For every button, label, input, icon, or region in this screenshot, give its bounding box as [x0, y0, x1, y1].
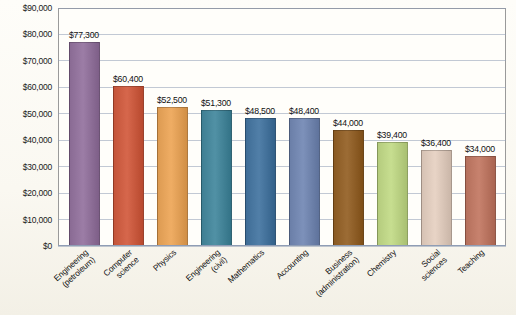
x-label-slot: Physics	[152, 248, 192, 314]
chart-page: $90,000$80,000$70,000$60,000$50,000$40,0…	[0, 0, 516, 315]
bar-slot: $48,500	[240, 8, 280, 246]
bar-slot: $51,300	[196, 8, 236, 246]
bar-slot: $60,400	[108, 8, 148, 246]
y-axis-tick-label: $60,000	[0, 82, 52, 92]
bar-value-label: $51,300	[201, 98, 231, 108]
x-axis-category-label: Chemistry	[365, 248, 398, 279]
bar-series: $77,300$60,400$52,500$51,300$48,500$48,4…	[58, 8, 506, 246]
x-label-slot: Teaching	[460, 248, 500, 314]
x-label-slot: Engineering(petroleum)	[64, 248, 104, 314]
y-axis-tick-label: $20,000	[0, 188, 52, 198]
bar-slot: $34,000	[460, 8, 500, 246]
x-axis-category-label: Physics	[152, 248, 179, 274]
bar[interactable]	[157, 107, 188, 246]
bar-value-label: $44,000	[333, 118, 363, 128]
bar-slot: $39,400	[372, 8, 412, 246]
bar-slot: $36,400	[416, 8, 456, 246]
y-axis-tick-label: $90,000	[0, 3, 52, 13]
bar[interactable]	[333, 130, 364, 246]
y-axis-tick-label: $30,000	[0, 162, 52, 172]
x-label-slot: Chemistry	[372, 248, 412, 314]
x-label-slot: Socialsciences	[416, 248, 456, 314]
bar[interactable]	[289, 118, 320, 246]
y-axis-tick-label: $40,000	[0, 135, 52, 145]
bar[interactable]	[69, 42, 100, 246]
x-label-slot: Business(administration)	[328, 248, 368, 314]
y-axis-tick-label: $0	[0, 241, 52, 251]
bar-value-label: $52,500	[157, 95, 187, 105]
bar-slot: $44,000	[328, 8, 368, 246]
bar-value-label: $36,400	[421, 138, 451, 148]
bar-value-label: $48,400	[289, 106, 319, 116]
bar[interactable]	[465, 156, 496, 246]
bar[interactable]	[113, 86, 144, 246]
x-axis-category-label: Socialsciences	[413, 248, 449, 283]
bar-value-label: $34,000	[465, 144, 495, 154]
bar-value-label: $60,400	[113, 74, 143, 84]
bar-value-label: $48,500	[245, 106, 275, 116]
bar-slot: $77,300	[64, 8, 104, 246]
bar-value-label: $77,300	[69, 30, 99, 40]
zero-axis-line	[58, 245, 506, 246]
x-label-slot: Computerscience	[108, 248, 148, 314]
bar[interactable]	[421, 150, 452, 246]
x-axis-category-label: Accounting	[275, 248, 311, 282]
bar[interactable]	[245, 118, 276, 246]
x-axis-category-label: Engineering(petroleum)	[52, 248, 96, 291]
y-axis-tick-label: $70,000	[0, 56, 52, 66]
x-label-slot: Mathematics	[240, 248, 280, 314]
bar[interactable]	[377, 142, 408, 246]
bar-value-label: $39,400	[377, 130, 407, 140]
x-axis-category-label: Computerscience	[102, 248, 141, 286]
x-axis-labels: Engineering(petroleum)ComputersciencePhy…	[58, 248, 506, 314]
bar-slot: $48,400	[284, 8, 324, 246]
y-axis-tick-label: $10,000	[0, 215, 52, 225]
x-axis-category-label: Teaching	[456, 248, 486, 276]
y-axis-tick-label: $80,000	[0, 29, 52, 39]
y-axis-tick-label: $50,000	[0, 109, 52, 119]
bar-slot: $52,500	[152, 8, 192, 246]
bar[interactable]	[201, 110, 232, 246]
